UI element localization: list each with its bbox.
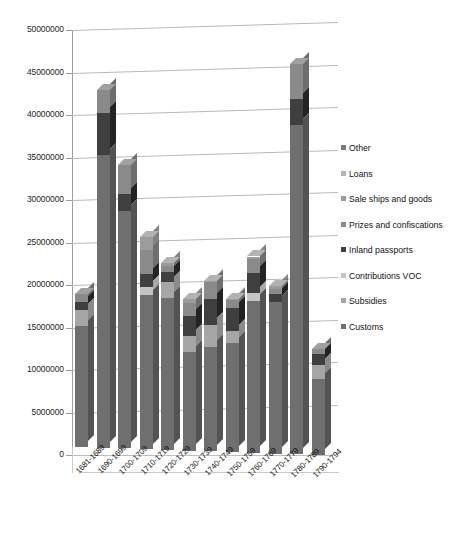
y-axis-tick-label: 25000000 [27,237,64,247]
bar-segment[interactable] [183,336,196,352]
y-axis-tick-label: 30000000 [27,194,64,204]
stacked-bar[interactable] [97,90,110,448]
bar-group[interactable] [140,24,153,449]
legend-item[interactable]: Loans [341,169,449,180]
bar-group[interactable] [97,23,110,448]
legend-item[interactable]: Inland passports [341,245,449,256]
bar-segment[interactable] [247,293,260,301]
bar-segment[interactable] [140,295,153,449]
bar-segment[interactable] [161,298,174,450]
y-axis-tick-label: 40000000 [27,109,64,119]
bar-segment[interactable] [161,263,174,266]
bar-segment[interactable] [161,272,174,282]
bar-segment[interactable] [140,237,153,251]
bar-segment-side [174,286,180,444]
bar-segment[interactable] [226,343,239,452]
bar-segment[interactable] [161,266,174,272]
bar-segment[interactable] [312,379,325,456]
bar-segment[interactable] [226,299,239,300]
legend-swatch-icon [341,247,346,252]
bar-segment[interactable] [290,64,303,99]
legend-item-label: Sale ships and goods [349,194,432,205]
bar-segment[interactable] [75,302,88,311]
bar-segment[interactable] [75,294,88,302]
stacked-bar[interactable] [226,299,239,452]
bar-segment[interactable] [204,281,217,282]
bar-segment[interactable] [118,165,131,194]
stacked-bar[interactable] [161,263,174,450]
bar-segment[interactable] [183,299,196,302]
bar-segment[interactable] [312,349,325,354]
bar-segment[interactable] [269,302,282,453]
bar-group[interactable] [290,29,303,454]
bar-segment[interactable] [97,155,110,447]
stacked-bar[interactable] [75,294,88,447]
bar-segment[interactable] [161,282,174,297]
legend-item[interactable]: Contributions VOC [341,271,449,282]
bar-side-face [88,282,94,441]
bar-segment[interactable] [290,99,303,125]
stacked-bar[interactable] [183,299,196,450]
bar-segment-side [260,289,266,447]
bar-segment[interactable] [247,273,260,293]
bar-group[interactable] [269,29,282,454]
bar-side-face [110,78,116,442]
stacked-bar[interactable] [140,237,153,450]
bar-segment[interactable] [97,113,110,156]
bar-group[interactable] [226,27,239,452]
bar-segment[interactable] [247,257,260,260]
bar-segment[interactable] [312,354,325,365]
bar-segment[interactable] [269,294,282,303]
bar-side-face [260,244,266,446]
legend-item[interactable]: Sale ships and goods [341,194,449,205]
bar-segment[interactable] [204,325,217,347]
bar-segment[interactable] [312,365,325,379]
bar-segment[interactable] [204,299,217,325]
bar-segment[interactable] [290,125,303,454]
stacked-bar[interactable] [118,165,131,448]
bar-segment-side [325,367,331,450]
bar-segment[interactable] [140,287,153,296]
bar-segment[interactable] [183,303,196,316]
legend-item[interactable]: Subsidies [341,296,449,307]
bar-segment[interactable] [204,347,217,452]
bar-segment[interactable] [226,300,239,309]
stacked-bar[interactable] [204,281,217,451]
bar-group[interactable] [312,30,325,455]
bar-segment[interactable] [183,352,196,451]
bar-segment[interactable] [75,326,88,447]
bar-segment-side [217,335,223,446]
legend-item[interactable]: Prizes and confiscations [341,220,449,231]
bar-segment[interactable] [118,194,131,211]
legend-swatch-icon [341,145,346,150]
bar-segment[interactable] [226,308,239,331]
legend-item[interactable]: Customs [341,322,449,333]
bar-segment[interactable] [97,90,110,113]
bar-group[interactable] [183,26,196,451]
bar-group[interactable] [75,22,88,447]
bar-segment-side [153,283,159,443]
bar-group[interactable] [161,25,174,450]
stacked-bar[interactable] [290,64,303,454]
bar-side-face [239,287,245,446]
bar-group[interactable] [247,28,260,453]
stacked-bar[interactable] [312,349,325,455]
bar-segment[interactable] [140,250,153,274]
bar-segment[interactable] [118,211,131,448]
bar-segment[interactable] [226,331,239,343]
bar-group[interactable] [118,23,131,448]
stacked-bar[interactable] [247,256,260,452]
bar-segment[interactable] [247,301,260,453]
stacked-bar[interactable] [269,286,282,453]
bar-segment[interactable] [269,286,282,289]
bar-segment[interactable] [183,316,196,336]
legend-item[interactable]: Other [341,143,449,154]
bar-segment[interactable] [269,289,282,294]
bar-segment[interactable] [204,282,217,299]
y-axis-tick-label: 10000000 [27,364,64,374]
bar-group[interactable] [204,26,217,451]
bar-segment[interactable] [140,274,153,287]
bar-segment[interactable] [247,259,260,273]
y-axis-tick-label: 35000000 [27,152,64,162]
bar-segment[interactable] [75,310,88,326]
